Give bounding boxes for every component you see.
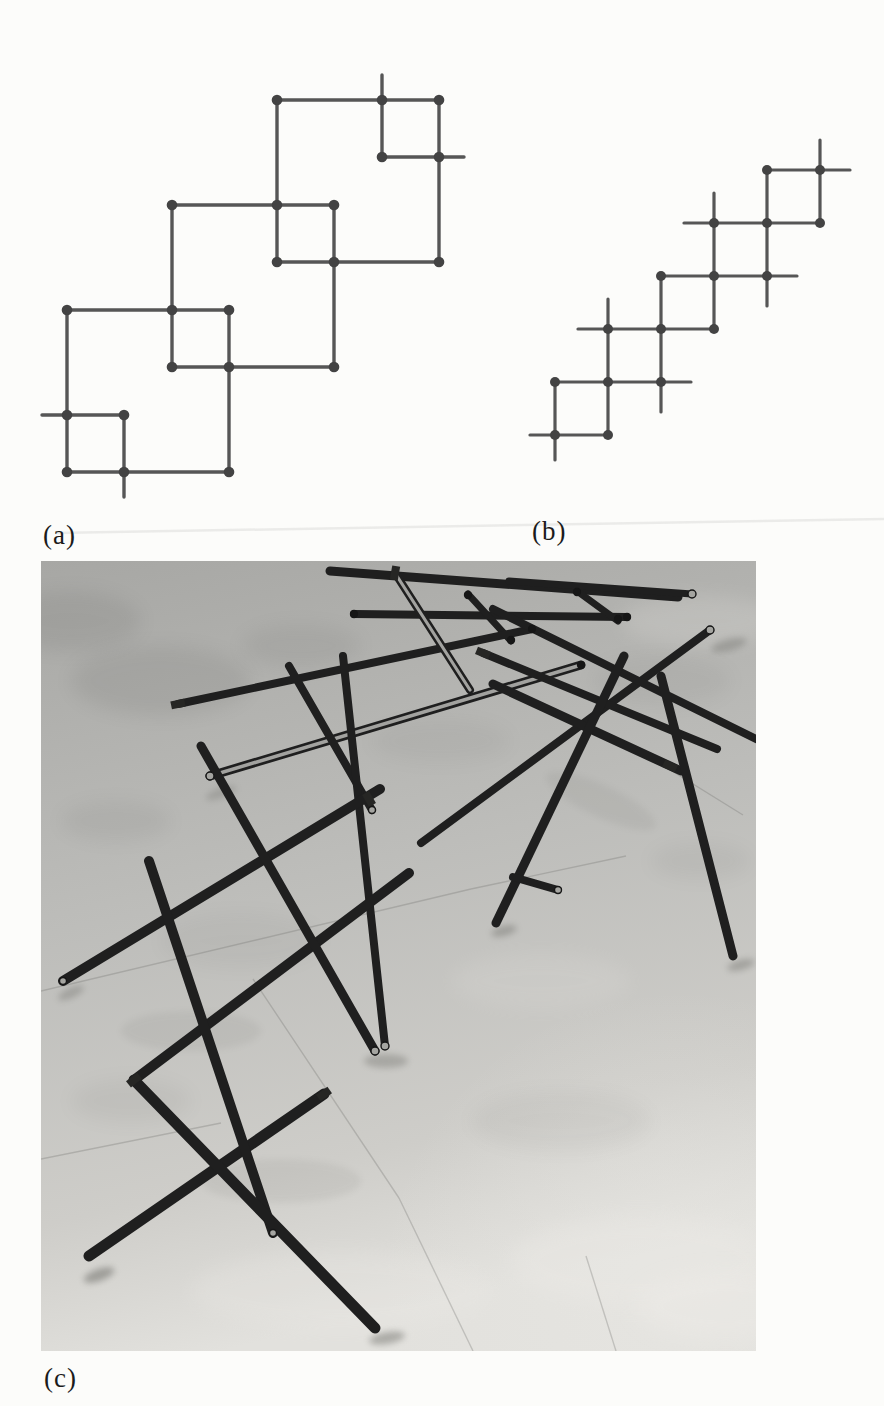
junction-dot (119, 467, 130, 478)
junction-dot (377, 152, 388, 163)
junction-dot (167, 362, 178, 373)
junction-dot (762, 218, 772, 228)
junction-dot (224, 305, 235, 316)
subfigure-label-c: (c) (44, 1363, 77, 1393)
diagram-a-chain-of-large-squares (42, 75, 464, 497)
rod-sculpture-on-floor (41, 561, 756, 1351)
junction-dot (434, 152, 445, 163)
junction-dot (603, 430, 613, 440)
junction-dot (762, 165, 772, 175)
junction-dot (762, 271, 772, 281)
joint-blob (577, 661, 585, 669)
junction-dot (62, 467, 73, 478)
joint-blob (573, 588, 581, 596)
junction-dot (167, 200, 178, 211)
scan-artifact-line (55, 519, 884, 533)
junction-dot (224, 467, 235, 478)
junction-dot (377, 95, 388, 106)
floor-stain (471, 1091, 651, 1151)
floor-stain (61, 801, 171, 841)
rod-end-cap (60, 978, 67, 985)
junction-dot (167, 305, 178, 316)
linked-squares-diagrams (0, 0, 884, 560)
junction-dot (329, 362, 340, 373)
junction-dot (815, 218, 825, 228)
junction-dot (62, 410, 73, 421)
rod-end-cap (270, 1230, 277, 1237)
sculpture-photo (41, 561, 756, 1351)
subfigure-label-b: (b) (532, 516, 566, 546)
junction-dot (329, 257, 340, 268)
junction-dot (815, 165, 825, 175)
figure-page: (a) (b) (0, 0, 884, 1406)
rod-shadow (364, 1054, 408, 1068)
junction-dot (603, 324, 613, 334)
rod-end-cap (706, 626, 714, 634)
rod-end-cap (688, 590, 696, 598)
junction-dot (62, 305, 73, 316)
joint-blob (614, 615, 622, 623)
junction-dot (656, 271, 666, 281)
junction-dot (709, 218, 719, 228)
junction-dot (434, 95, 445, 106)
joint-blob (464, 591, 472, 599)
floor-stain (71, 646, 251, 716)
rod-end-cap (371, 1047, 379, 1055)
floor-light-spot (451, 953, 631, 1009)
junction-dot (709, 271, 719, 281)
rod-end-cap (381, 1042, 389, 1050)
rod-end-cap (555, 887, 562, 894)
diagram-b-chain-of-small-squares (530, 140, 850, 460)
junction-dot (550, 377, 560, 387)
junction-dot (709, 324, 719, 334)
joint-blob (507, 636, 515, 644)
joint-blob (350, 610, 358, 618)
junction-dot (656, 324, 666, 334)
rod-end-cap (369, 807, 376, 814)
junction-dot (603, 377, 613, 387)
joint-blob (528, 625, 536, 633)
junction-dot (272, 200, 283, 211)
junction-dot (272, 95, 283, 106)
rod-end-cap (206, 772, 214, 780)
junction-dot (272, 257, 283, 268)
junction-dot (224, 362, 235, 373)
junction-dot (550, 430, 560, 440)
subfigure-label-a: (a) (43, 520, 76, 550)
junction-dot (329, 200, 340, 211)
junction-dot (434, 257, 445, 268)
junction-dot (656, 377, 666, 387)
junction-dot (119, 410, 130, 421)
joint-blob (623, 613, 631, 621)
